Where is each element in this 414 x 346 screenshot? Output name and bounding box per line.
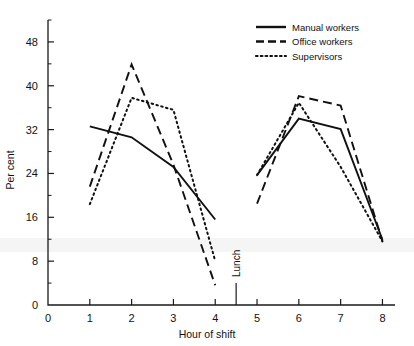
y-tick-label: 48 bbox=[26, 36, 38, 48]
x-tick-label: 7 bbox=[338, 312, 344, 324]
legend-label-manual-workers: Manual workers bbox=[292, 22, 359, 33]
y-tick-label: 32 bbox=[26, 124, 38, 136]
line-chart: 081624324048012345678 Lunch Hour of shif… bbox=[0, 0, 414, 346]
x-tick-label: 1 bbox=[87, 312, 93, 324]
y-tick-label: 8 bbox=[32, 255, 38, 267]
x-axis-title: Hour of shift bbox=[179, 328, 236, 340]
legend-label-supervisors: Supervisors bbox=[292, 51, 342, 62]
legend-label-office-workers: Office workers bbox=[292, 36, 353, 47]
plot-background bbox=[0, 0, 414, 346]
scan-band bbox=[0, 238, 414, 252]
y-tick-label: 40 bbox=[26, 80, 38, 92]
x-tick-label: 3 bbox=[170, 312, 176, 324]
x-tick-label: 0 bbox=[45, 312, 51, 324]
x-tick-label: 4 bbox=[212, 312, 218, 324]
y-tick-label: 24 bbox=[26, 167, 38, 179]
x-tick-label: 2 bbox=[129, 312, 135, 324]
x-tick-label: 5 bbox=[254, 312, 260, 324]
x-tick-label: 6 bbox=[296, 312, 302, 324]
y-tick-label: 16 bbox=[26, 211, 38, 223]
lunch-annotation-label: Lunch bbox=[231, 250, 242, 277]
chart-container: 081624324048012345678 Lunch Hour of shif… bbox=[0, 0, 414, 346]
y-axis-title: Per cent bbox=[4, 150, 16, 189]
y-tick-label: 0 bbox=[32, 299, 38, 311]
x-tick-label: 8 bbox=[379, 312, 385, 324]
